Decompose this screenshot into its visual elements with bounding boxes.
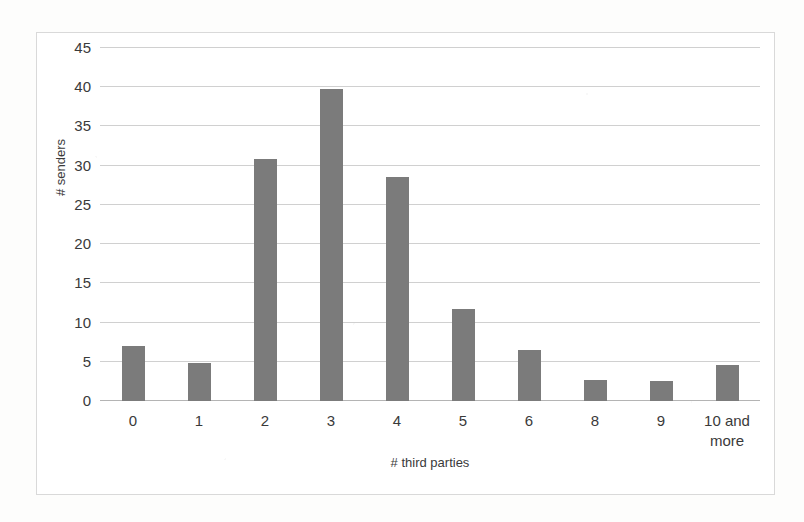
y-axis-tick-label: 20 — [74, 235, 91, 252]
bar-slot: 6 — [496, 48, 562, 401]
bar — [452, 309, 475, 401]
x-axis-tick-label: 0 — [100, 411, 166, 431]
y-axis-tick-label: 30 — [74, 156, 91, 173]
y-axis-tick-label: 0 — [83, 392, 91, 409]
bar — [254, 159, 277, 401]
x-axis-tick-label: 3 — [298, 411, 364, 431]
bar-slot: 5 — [430, 48, 496, 401]
bar-slot: 0 — [100, 48, 166, 401]
x-axis-tick-label: 9 — [628, 411, 694, 431]
bar — [188, 363, 211, 401]
x-axis-tick-label: 6 — [496, 411, 562, 431]
bar — [386, 177, 409, 401]
y-axis-tick-label: 35 — [74, 117, 91, 134]
plot-area: 051015202530354045 01234568910 andmore — [100, 48, 760, 401]
bar — [122, 346, 145, 401]
y-axis-tick-label: 45 — [74, 39, 91, 56]
bar-slot: 3 — [298, 48, 364, 401]
bar-slot: 2 — [232, 48, 298, 401]
bar-slot: 4 — [364, 48, 430, 401]
x-axis-title: # third parties — [100, 455, 760, 470]
bar-slot: 9 — [628, 48, 694, 401]
bar-slot: 8 — [562, 48, 628, 401]
y-axis-tick-label: 15 — [74, 274, 91, 291]
x-axis-tick-label: 1 — [166, 411, 232, 431]
bar — [650, 381, 673, 401]
bar — [518, 350, 541, 401]
y-axis-title: # senders — [53, 139, 68, 196]
bar — [584, 380, 607, 401]
x-axis-tick-label: 8 — [562, 411, 628, 431]
x-axis-tick-label: 10 andmore — [694, 411, 760, 452]
bar-slot: 1 — [166, 48, 232, 401]
y-axis-tick-label: 40 — [74, 78, 91, 95]
x-axis-tick-label: 5 — [430, 411, 496, 431]
x-axis-tick-label: 2 — [232, 411, 298, 431]
bar-series: 01234568910 andmore — [100, 48, 760, 401]
bar-slot: 10 andmore — [694, 48, 760, 401]
y-axis-tick-label: 10 — [74, 313, 91, 330]
y-axis-tick-label: 25 — [74, 195, 91, 212]
x-axis-tick-label: 4 — [364, 411, 430, 431]
bar — [320, 89, 343, 401]
bar — [716, 365, 739, 401]
y-axis-tick-label: 5 — [83, 352, 91, 369]
